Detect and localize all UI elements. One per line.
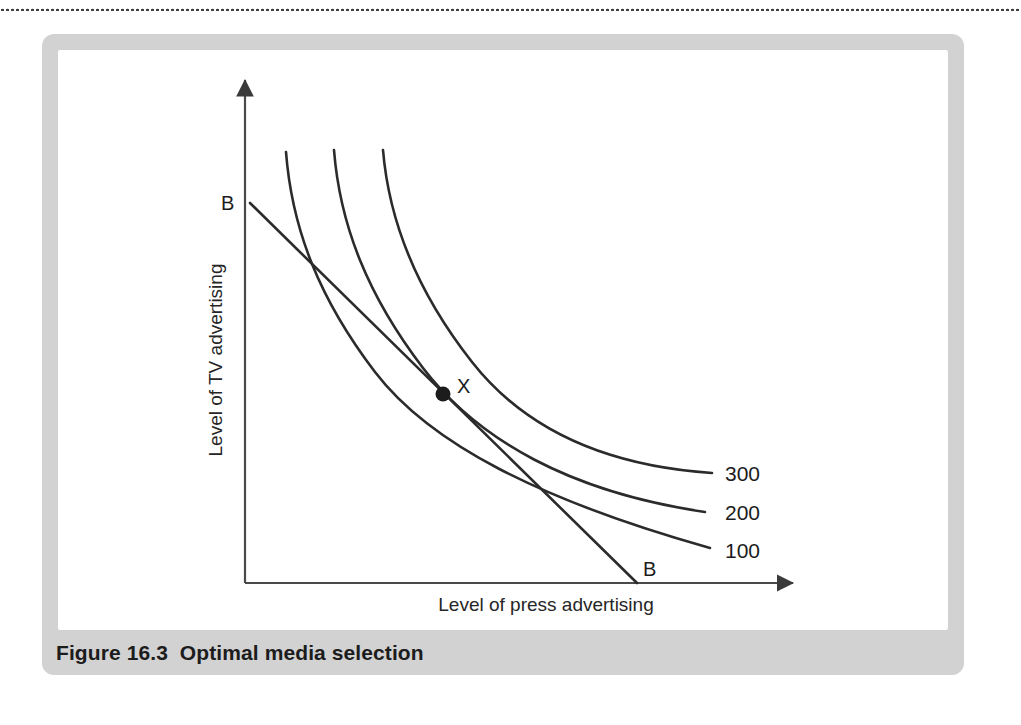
budget-label-bottom: B (643, 558, 656, 580)
isoquant-curve-200 (334, 150, 705, 512)
tangency-point-label: X (457, 375, 470, 397)
y-axis-label: Level of TV advertising (205, 264, 226, 457)
figure-root: B B X 300 200 100 Level of press adverti… (0, 0, 1021, 725)
curve-label-200: 200 (725, 501, 760, 524)
curve-label-300: 300 (725, 462, 760, 485)
isoquant-curve-300 (383, 150, 712, 473)
budget-label-top: B (221, 192, 234, 214)
figure-caption-bar: Figure 16.3 Optimal media selection (42, 632, 964, 674)
isoquant-curve-100 (286, 152, 710, 548)
tangency-point-marker (436, 387, 451, 402)
x-axis-label: Level of press advertising (438, 594, 653, 615)
curve-label-100: 100 (725, 539, 760, 562)
figure-caption-text: Figure 16.3 Optimal media selection (56, 641, 424, 665)
media-selection-chart: B B X 300 200 100 Level of press adverti… (0, 0, 1021, 725)
